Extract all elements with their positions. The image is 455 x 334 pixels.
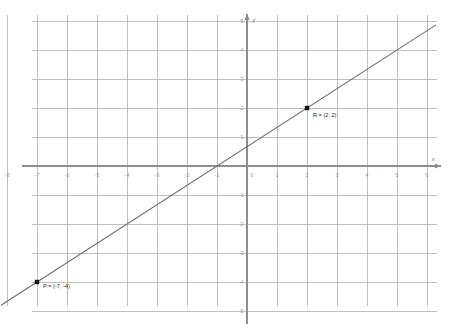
graph-canvas: -8-7-6-5-4-3-2-10123456 54321-1-2-3-4-5 … xyxy=(0,0,455,334)
y-tick-label: 4 xyxy=(241,47,244,53)
x-tick-label: -4 xyxy=(125,172,130,178)
x-tick-label: 6 xyxy=(426,172,429,178)
x-tick-label: -7 xyxy=(35,172,40,178)
x-tick-label: -5 xyxy=(95,172,100,178)
y-tick-label: -1 xyxy=(239,192,244,198)
axis-name-labels: xy xyxy=(252,17,435,162)
y-tick-label: 1 xyxy=(241,134,244,140)
point-marker-P xyxy=(35,280,39,284)
x-tick-label: 2 xyxy=(306,172,309,178)
line-through-points xyxy=(1,25,436,305)
x-tick-label: -3 xyxy=(155,172,160,178)
y-tick-label: 2 xyxy=(241,105,244,111)
x-tick-label: -6 xyxy=(65,172,70,178)
coordinate-plane-chart: -8-7-6-5-4-3-2-10123456 54321-1-2-3-4-5 … xyxy=(0,0,455,334)
y-tick-label: -3 xyxy=(239,250,244,256)
x-tick-label: -8 xyxy=(5,172,10,178)
point-label-R: R = (2, 2) xyxy=(313,112,337,118)
y-tick-label: -2 xyxy=(239,221,244,227)
axes xyxy=(22,14,441,324)
point-marker-R xyxy=(305,106,309,110)
y-tick-label: -5 xyxy=(239,308,244,314)
x-tick-label: 1 xyxy=(276,172,279,178)
y-tick-label: 3 xyxy=(241,76,244,82)
plotted-line xyxy=(1,25,436,305)
y-axis-name: y xyxy=(252,17,256,23)
y-tick-label: -4 xyxy=(239,279,244,285)
y-axis-arrow-icon xyxy=(244,14,249,20)
x-tick-label: 5 xyxy=(396,172,399,178)
x-tick-label: 0 xyxy=(250,172,253,178)
point-label-P: P = (-7, -4) xyxy=(43,283,70,289)
y-tick-label: 5 xyxy=(241,18,244,24)
x-axis-name: x xyxy=(431,156,435,162)
point-labels: P = (-7, -4)R = (2, 2) xyxy=(43,112,337,289)
x-tick-label: -1 xyxy=(215,172,220,178)
x-tick-label: -2 xyxy=(185,172,190,178)
grid-lines-vertical xyxy=(7,15,427,306)
x-axis-arrow-icon xyxy=(435,163,441,168)
x-tick-label: 4 xyxy=(366,172,369,178)
x-tick-label: 3 xyxy=(336,172,339,178)
x-axis-tick-labels: -8-7-6-5-4-3-2-10123456 xyxy=(5,172,429,178)
